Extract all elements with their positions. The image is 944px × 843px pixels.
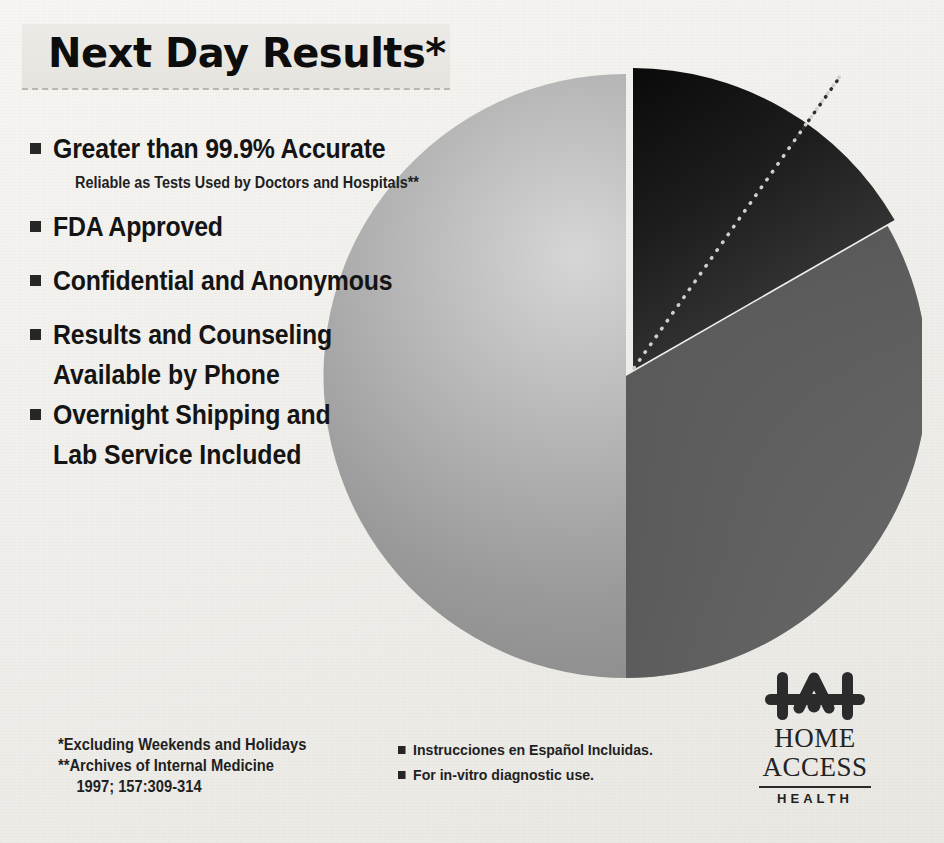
feature-label: FDA Approved xyxy=(53,210,223,244)
product-notes: Instrucciones en Español Incluidas. For … xyxy=(398,737,653,787)
note-label: Instrucciones en Español Incluidas. xyxy=(413,737,653,762)
list-item: Instrucciones en Español Incluidas. xyxy=(398,737,653,762)
brand-logo: HOME ACCESS HEALTH xyxy=(741,668,889,806)
list-item: Greater than 99.9% Accurate xyxy=(30,132,470,166)
logo-word-access: ACCESS xyxy=(741,753,889,782)
footnotes: *Excluding Weekends and Holidays **Archi… xyxy=(58,734,306,797)
feature-label: Overnight Shipping and xyxy=(53,398,330,432)
bullet-square-icon xyxy=(30,275,41,286)
poster-canvas: Next Day Results* xyxy=(0,0,944,843)
feature-list: Greater than 99.9% Accurate Reliable as … xyxy=(30,132,470,478)
feature-subtext: Reliable as Tests Used by Doctors and Ho… xyxy=(75,172,431,194)
logo-word-home: HOME xyxy=(741,724,889,753)
feature-label-continued: Lab Service Included xyxy=(53,438,437,472)
bullet-square-icon xyxy=(398,746,406,754)
spacer xyxy=(30,250,470,264)
feature-label-continued: Available by Phone xyxy=(53,358,437,392)
feature-label: Confidential and Anonymous xyxy=(53,264,392,298)
footnote-line-1: *Excluding Weekends and Holidays xyxy=(58,734,306,755)
footnote-line-2: **Archives of Internal Medicine xyxy=(58,755,306,776)
spacer xyxy=(30,304,470,318)
footnote-line-3: 1997; 157:309-314 xyxy=(58,776,306,797)
bullet-square-icon xyxy=(30,409,41,420)
bullet-square-icon xyxy=(30,143,41,154)
logo-divider xyxy=(759,786,871,788)
home-access-monogram-icon xyxy=(755,668,875,724)
bullet-square-icon xyxy=(30,329,41,340)
feature-label: Greater than 99.9% Accurate xyxy=(53,132,385,166)
bullet-square-icon xyxy=(30,221,41,232)
logo-tagline: HEALTH xyxy=(741,791,889,806)
list-item: For in-vitro diagnostic use. xyxy=(398,762,653,787)
list-item: Results and Counseling xyxy=(30,318,470,352)
feature-label: Results and Counseling xyxy=(53,318,332,352)
list-item: FDA Approved xyxy=(30,210,470,244)
bullet-square-icon xyxy=(398,771,406,779)
list-item: Confidential and Anonymous xyxy=(30,264,470,298)
note-label: For in-vitro diagnostic use. xyxy=(413,762,594,787)
list-item: Overnight Shipping and xyxy=(30,398,470,432)
